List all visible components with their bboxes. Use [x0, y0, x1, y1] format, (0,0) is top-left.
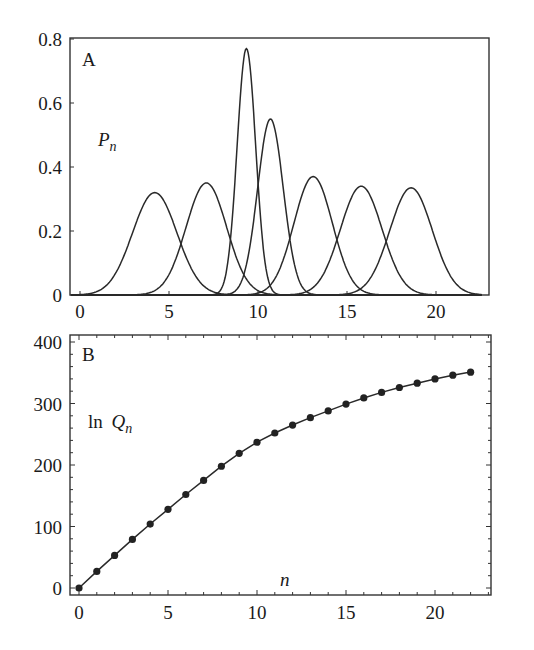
distribution-curve	[71, 177, 481, 295]
data-point	[111, 552, 118, 559]
figure: 0510152000.20.40.60.8 A Pn 0510152001002…	[0, 0, 534, 650]
distribution-curve	[71, 188, 481, 295]
data-point	[129, 536, 136, 543]
data-point	[200, 477, 207, 484]
panel-b-xlabel: n	[280, 569, 290, 590]
y-tick-label: 200	[34, 455, 63, 476]
y-tick-label: 400	[34, 332, 63, 353]
data-point	[414, 380, 421, 387]
panel-b-ylabel: ln Qn	[88, 411, 132, 436]
distribution-curve	[71, 183, 481, 295]
data-point	[75, 584, 82, 591]
y-tick-label: 300	[34, 394, 63, 415]
y-tick-label: 0.6	[38, 93, 62, 114]
data-point	[449, 372, 456, 379]
panel-a-ylabel-main: P	[97, 129, 110, 150]
data-point	[325, 407, 332, 414]
y-tick-label: 0.2	[38, 221, 62, 242]
distribution-curve	[71, 193, 481, 295]
data-point	[218, 463, 225, 470]
distribution-curve	[71, 186, 481, 295]
data-point	[307, 414, 314, 421]
data-point	[360, 394, 367, 401]
x-tick-label: 20	[427, 301, 446, 322]
panel-b-ticks: 051015200100200300400	[34, 332, 492, 623]
y-tick-label: 0	[53, 578, 63, 599]
data-point	[467, 369, 474, 376]
x-tick-label: 15	[337, 602, 356, 623]
panel-a-curves	[71, 49, 481, 295]
x-tick-label: 0	[74, 602, 84, 623]
x-tick-label: 10	[248, 602, 267, 623]
ln-q-line	[79, 372, 471, 588]
x-tick-label: 15	[338, 301, 357, 322]
distribution-curve	[71, 49, 481, 295]
panel-b-ylabel-sub: n	[125, 421, 132, 436]
x-tick-label: 5	[163, 602, 173, 623]
panel-a-ylabel: Pn	[97, 129, 117, 154]
data-point	[93, 568, 100, 575]
data-point	[147, 520, 154, 527]
panel-b-frame	[70, 335, 491, 595]
data-point	[378, 389, 385, 396]
panel-b-ylabel-main: Q	[112, 411, 126, 432]
panel-a: 0510152000.20.40.60.8 A Pn	[38, 29, 489, 322]
distribution-curve	[71, 119, 481, 295]
data-point	[164, 506, 171, 513]
data-point	[342, 401, 349, 408]
panel-b-letter: B	[82, 344, 95, 365]
data-point	[271, 429, 278, 436]
data-point	[253, 439, 260, 446]
x-tick-label: 10	[249, 301, 268, 322]
x-tick-label: 5	[164, 301, 174, 322]
y-tick-label: 100	[34, 517, 63, 538]
data-point	[289, 421, 296, 428]
x-tick-label: 20	[426, 602, 445, 623]
data-point	[182, 491, 189, 498]
data-point	[431, 375, 438, 382]
y-tick-label: 0.8	[38, 29, 62, 50]
data-point	[396, 384, 403, 391]
panel-b-ylabel-prefix: ln	[88, 411, 108, 432]
panel-b: 051015200100200300400 B ln Qn n	[34, 332, 492, 623]
panel-b-curve	[75, 369, 474, 592]
panel-a-ylabel-sub: n	[110, 139, 117, 154]
panel-a-frame	[70, 38, 489, 295]
x-tick-label: 0	[75, 301, 85, 322]
y-tick-label: 0	[53, 285, 63, 306]
data-point	[236, 450, 243, 457]
y-tick-label: 0.4	[38, 157, 62, 178]
panel-a-letter: A	[82, 49, 96, 70]
